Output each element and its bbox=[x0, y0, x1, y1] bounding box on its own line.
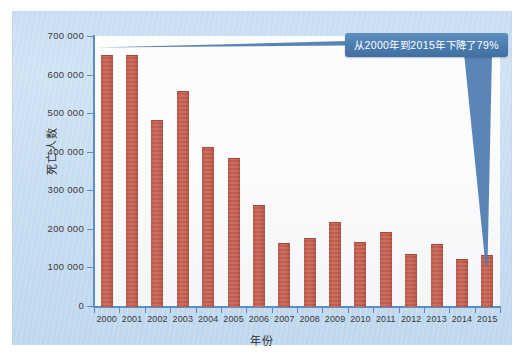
bar bbox=[126, 55, 138, 307]
x-axis-tick bbox=[348, 307, 349, 313]
y-axis-tick bbox=[87, 36, 94, 37]
x-axis-tick bbox=[500, 307, 501, 313]
callout-leader-line-horizontal bbox=[96, 41, 346, 48]
x-axis-title: 年份 bbox=[12, 332, 512, 348]
x-axis-tick bbox=[196, 307, 197, 313]
callout-annotation: 从2000年到2015年下降了79% bbox=[345, 33, 508, 57]
x-axis-tick bbox=[221, 307, 222, 313]
y-axis-tick-label: 100 000 bbox=[12, 261, 84, 272]
y-axis-tick bbox=[87, 267, 94, 268]
bar bbox=[380, 232, 392, 307]
bar bbox=[431, 244, 443, 307]
bar bbox=[405, 254, 417, 307]
bar bbox=[329, 222, 341, 307]
y-axis-tick bbox=[87, 190, 94, 191]
x-axis-tick bbox=[272, 307, 273, 313]
chart-panel: 0100 000200 000300 000400 000500 000600 … bbox=[12, 11, 512, 345]
y-axis-tick-label: 600 000 bbox=[12, 69, 84, 80]
y-axis-tick bbox=[87, 306, 94, 307]
bar bbox=[253, 205, 265, 307]
bar bbox=[278, 243, 290, 307]
x-axis-tick bbox=[449, 307, 450, 313]
x-axis-tick-label: 2015 bbox=[471, 314, 503, 324]
x-axis-tick bbox=[94, 307, 95, 313]
x-axis-tick bbox=[322, 307, 323, 313]
y-axis-tick bbox=[87, 152, 94, 153]
bar bbox=[202, 147, 214, 307]
y-axis-tick bbox=[87, 75, 94, 76]
callout-leader-line-vertical bbox=[464, 53, 492, 265]
x-axis-tick bbox=[424, 307, 425, 313]
bar bbox=[177, 91, 189, 307]
y-axis-tick-label: 200 000 bbox=[12, 223, 84, 234]
y-axis-tick-label: 0 bbox=[12, 300, 84, 311]
x-axis-tick bbox=[475, 307, 476, 313]
bar bbox=[354, 242, 366, 307]
y-axis-tick-label: 700 000 bbox=[12, 30, 84, 41]
x-axis-tick bbox=[170, 307, 171, 313]
x-axis-tick bbox=[399, 307, 400, 313]
y-axis-tick bbox=[87, 229, 94, 230]
x-axis-tick bbox=[246, 307, 247, 313]
x-axis-tick bbox=[119, 307, 120, 313]
x-axis-tick bbox=[297, 307, 298, 313]
bar bbox=[101, 55, 113, 307]
x-axis-tick bbox=[373, 307, 374, 313]
bar bbox=[228, 158, 240, 307]
callout-annotation-text: 从2000年到2015年下降了79% bbox=[354, 39, 499, 51]
bar bbox=[151, 120, 163, 307]
x-axis-tick bbox=[145, 307, 146, 313]
bar bbox=[304, 238, 316, 307]
chart-figure: 0100 000200 000300 000400 000500 000600 … bbox=[0, 0, 524, 356]
bar bbox=[456, 259, 468, 307]
y-axis-title: 死亡人数 bbox=[43, 111, 59, 191]
y-axis-tick bbox=[87, 113, 94, 114]
